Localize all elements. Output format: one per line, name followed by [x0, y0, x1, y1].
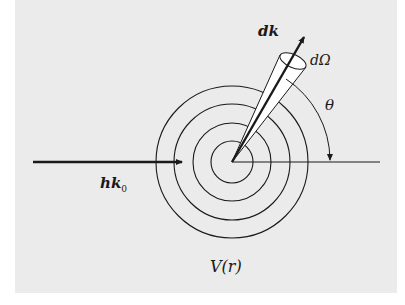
- scattered-arrow: [232, 37, 304, 162]
- label-dk: dk: [258, 22, 279, 40]
- label-hk: hk: [100, 174, 121, 192]
- label-d-omega: dΩ: [310, 52, 331, 68]
- label-potential: V(r): [210, 257, 242, 276]
- label-hk-subscript: 0: [121, 184, 127, 194]
- scattering-diagram: dk dΩ θ hk0 V(r): [0, 0, 405, 305]
- diagram-graphics: [0, 0, 405, 305]
- label-hk0: hk0: [100, 174, 127, 194]
- label-theta: θ: [325, 96, 334, 114]
- theta-arc: [286, 79, 330, 160]
